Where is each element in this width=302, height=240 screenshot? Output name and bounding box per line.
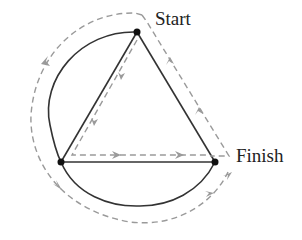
node-finish bbox=[212, 159, 219, 166]
finish-label: Finish bbox=[236, 146, 284, 165]
start-label: Start bbox=[155, 9, 191, 28]
node-start bbox=[134, 29, 141, 36]
arrow-icon bbox=[205, 191, 214, 197]
edge-start-left bbox=[61, 32, 137, 162]
arrows bbox=[0, 0, 232, 197]
solid-edges bbox=[48, 32, 215, 206]
route-diagram bbox=[0, 0, 302, 240]
inner-route bbox=[72, 40, 210, 155]
arrow-icon bbox=[118, 72, 125, 80]
arrow-icon bbox=[166, 57, 174, 65]
arrow-icon bbox=[175, 151, 184, 159]
arc-left-finish bbox=[61, 162, 215, 206]
arrow-icon bbox=[91, 118, 98, 126]
node-left bbox=[58, 159, 65, 166]
edge-start-finish bbox=[137, 32, 215, 162]
arc-start-left bbox=[48, 32, 137, 162]
right-route bbox=[142, 15, 229, 156]
